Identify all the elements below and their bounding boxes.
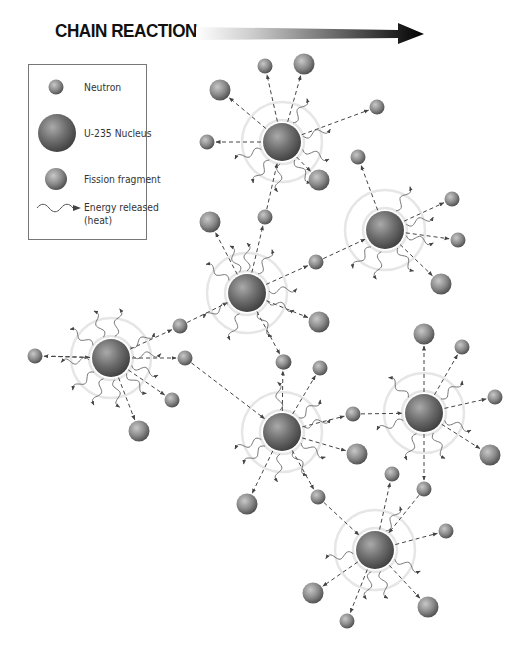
energy-wave-icon bbox=[432, 433, 445, 458]
neutron-path-arrow bbox=[297, 157, 311, 171]
energy-wave-icon bbox=[406, 217, 433, 226]
fragment-icon bbox=[480, 445, 501, 466]
energy-wave-icon bbox=[127, 374, 147, 394]
fragment-icon bbox=[129, 421, 150, 442]
neutron-icon bbox=[165, 393, 180, 408]
energy-wave-icon bbox=[230, 246, 241, 272]
neutron-icon bbox=[258, 59, 273, 74]
energy-wave-icon bbox=[269, 287, 297, 294]
energy-wave-icon bbox=[61, 357, 89, 364]
neutron-icon bbox=[445, 192, 460, 207]
legend-label: Neutron bbox=[84, 81, 121, 94]
neutron-path-arrow bbox=[400, 245, 432, 276]
energy-wave-icon bbox=[445, 421, 471, 432]
energy-wave-icon bbox=[268, 301, 294, 312]
neutron-icon bbox=[439, 524, 454, 539]
energy-wave-icon bbox=[364, 572, 372, 600]
energy-wave-icon bbox=[257, 312, 272, 336]
energy-wave-icon bbox=[94, 311, 105, 337]
energy-wave-icon bbox=[303, 129, 330, 138]
fragment-icon bbox=[347, 444, 368, 465]
energy-wave-icon bbox=[406, 236, 433, 245]
energy-wave-icon bbox=[389, 378, 409, 398]
fragment-icon bbox=[431, 274, 452, 295]
fragment-icon bbox=[210, 80, 231, 101]
neutron-icon bbox=[173, 319, 188, 334]
neutron-icon bbox=[370, 100, 385, 115]
legend: Neutron U-235 Nucleus Fission fragment E… bbox=[28, 64, 147, 240]
neutron-icon bbox=[46, 77, 66, 97]
neutron-icon bbox=[309, 255, 324, 270]
energy-wave-icon bbox=[93, 379, 104, 405]
neutron-icon bbox=[313, 361, 328, 376]
neutron-icon bbox=[346, 407, 361, 422]
neutron-path-arrow bbox=[266, 266, 308, 285]
neutron-icon bbox=[258, 210, 273, 225]
nucleus-icon bbox=[263, 413, 301, 451]
energy-wave-icon bbox=[229, 314, 240, 340]
neutron-icon bbox=[488, 390, 503, 405]
legend-label: Energy released bbox=[84, 201, 159, 214]
neutron-path-arrow bbox=[302, 438, 345, 451]
energy-wave-icon bbox=[35, 201, 83, 213]
energy-wave-icon bbox=[326, 552, 354, 560]
neutron-path-arrow bbox=[252, 226, 263, 273]
neutron-path-arrow bbox=[266, 301, 307, 318]
neutron-icon bbox=[311, 490, 326, 505]
neutron-path-arrow bbox=[389, 565, 420, 598]
fragment-icon bbox=[303, 583, 324, 604]
fragment-icon bbox=[294, 54, 315, 75]
nucleus-icon bbox=[92, 339, 130, 377]
fragment-icon bbox=[237, 494, 258, 515]
neutron-path-arrow bbox=[361, 413, 402, 414]
legend-label: Fission fragment bbox=[84, 173, 161, 186]
neutron-icon bbox=[178, 351, 193, 366]
energy-wave-icon bbox=[374, 252, 382, 280]
progress-arrow bbox=[196, 23, 424, 44]
energy-wave-icon bbox=[130, 333, 154, 348]
energy-wave-icon bbox=[235, 438, 261, 449]
neutron-icon bbox=[276, 355, 291, 370]
energy-wave-icon bbox=[379, 571, 388, 598]
neutron-path-arrow bbox=[267, 75, 277, 122]
legend-label-sub: (heat) bbox=[84, 214, 112, 227]
neutron-path-arrow bbox=[406, 233, 449, 239]
energy-wave-icon bbox=[113, 380, 121, 408]
energy-wave-icon bbox=[275, 454, 282, 482]
neutron-path-arrow bbox=[302, 416, 344, 427]
energy-wave-icon bbox=[276, 382, 283, 410]
neutron-path-arrow bbox=[191, 363, 264, 419]
legend-label: U-235 Nucleus bbox=[84, 127, 151, 140]
neutron-path-arrow bbox=[350, 570, 367, 613]
energy-wave-icon bbox=[303, 150, 329, 161]
fragment-icon bbox=[309, 170, 330, 191]
nucleus-icon bbox=[405, 394, 443, 432]
energy-wave-icon bbox=[377, 419, 403, 430]
energy-wave-icon bbox=[204, 303, 228, 318]
nucleus-icon bbox=[263, 123, 301, 161]
neutron-path-arrow bbox=[361, 165, 378, 210]
neutron-path-arrow bbox=[288, 76, 301, 122]
neutron-path-arrow bbox=[323, 239, 365, 258]
nucleus-icon bbox=[36, 112, 78, 154]
neutron-icon bbox=[385, 467, 400, 482]
fragment-icon bbox=[200, 212, 221, 233]
energy-wave-icon bbox=[395, 559, 420, 572]
neutron-icon bbox=[200, 135, 215, 150]
fragment-icon bbox=[414, 324, 435, 345]
neutron-path-arrow bbox=[380, 483, 390, 530]
fragment-icon bbox=[418, 597, 439, 618]
energy-wave-icon bbox=[114, 309, 122, 337]
fragment-icon bbox=[309, 312, 330, 333]
neutron-icon bbox=[455, 340, 470, 355]
neutron-icon bbox=[28, 349, 43, 364]
nucleus-icon bbox=[356, 531, 394, 569]
neutron-path-arrow bbox=[252, 451, 273, 493]
neutron-icon bbox=[340, 614, 355, 629]
neutron-path-arrow bbox=[444, 399, 486, 408]
neutron-path-arrow bbox=[257, 312, 280, 355]
nucleus-icon bbox=[366, 211, 404, 249]
energy-wave-icon bbox=[406, 434, 417, 460]
energy-wave-icon bbox=[244, 243, 250, 271]
neutron-icon bbox=[351, 150, 366, 165]
